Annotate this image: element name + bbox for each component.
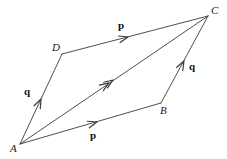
diagram-canvas — [0, 0, 227, 159]
edges-group — [20, 16, 208, 144]
edge-D-to-C — [62, 16, 208, 54]
vertex-label-a: A — [10, 143, 17, 154]
edge-A-to-C-diagonal — [20, 16, 208, 144]
vector-diagram-figure: ABCD ppqq — [0, 0, 227, 159]
vector-label-q-right: q — [189, 61, 195, 72]
edge-B-to-C — [161, 16, 208, 103]
vector-label-q-left: q — [24, 86, 30, 97]
vertex-label-c: C — [211, 5, 218, 16]
vector-label-p-top: p — [118, 20, 124, 31]
vector-label-p-bottom: p — [90, 130, 96, 141]
vertex-label-d: D — [52, 42, 60, 53]
vertex-label-b: B — [160, 105, 167, 116]
